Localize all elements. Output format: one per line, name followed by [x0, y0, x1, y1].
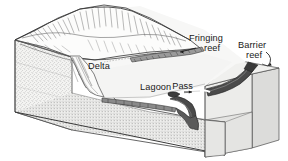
label-barrier-reef-line1: Barrier	[238, 40, 266, 50]
figure-root: Fringing reef Barrier reef Delta Lagoon …	[0, 0, 288, 161]
label-barrier-reef-line2: reef	[246, 50, 263, 60]
block-diagram-svg: Fringing reef Barrier reef Delta Lagoon …	[0, 0, 288, 161]
label-fringing-reef-line2: reef	[204, 43, 221, 53]
label-delta: Delta	[88, 61, 111, 71]
label-fringing-reef-line1: Fringing	[189, 33, 223, 43]
label-lagoon: Lagoon	[140, 82, 171, 92]
label-pass: Pass	[172, 81, 193, 91]
